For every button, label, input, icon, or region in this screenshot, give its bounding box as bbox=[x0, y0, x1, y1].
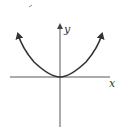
y-axis-label: y bbox=[63, 23, 71, 36]
parabola-diagram: y x bbox=[0, 0, 122, 139]
top-mark bbox=[29, 5, 32, 7]
x-axis-label: x bbox=[109, 77, 116, 90]
parabola-curve bbox=[18, 34, 60, 77]
parabola-curve-right bbox=[60, 34, 102, 77]
